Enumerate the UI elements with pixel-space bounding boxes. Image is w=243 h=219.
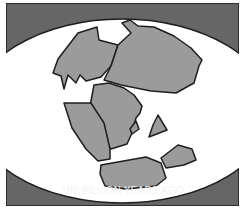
caption: 180 BILLION YEARS AGO	[6, 185, 239, 196]
map-illustration	[6, 3, 239, 206]
comic-panel: 180 BILLION YEARS AGO	[6, 3, 239, 206]
